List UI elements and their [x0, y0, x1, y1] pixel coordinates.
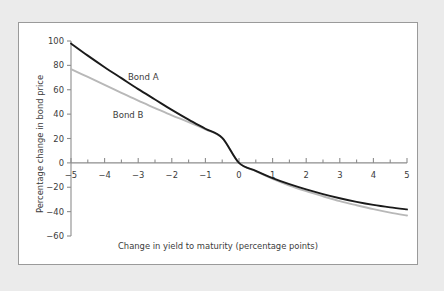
tick-marks: [67, 41, 407, 236]
x-tick-label: 5: [404, 170, 409, 180]
x-axis-title-text: Change in yield to maturity (percentage …: [118, 241, 318, 251]
axes: [71, 41, 407, 236]
x-tick-label: −4: [98, 170, 110, 180]
x-axis-title: Change in yield to maturity (percentage …: [19, 234, 417, 253]
y-tick-label: 20: [53, 134, 64, 144]
chart-figure: Percentage change in bond price −60−40−2…: [18, 22, 418, 265]
x-tick-label: 3: [337, 170, 342, 180]
line-chart-plot: −60−40−20020406080100 −5−4−3−2−1012345 B…: [19, 23, 419, 266]
y-tick-label: −40: [46, 207, 64, 217]
x-tick-label: 0: [236, 170, 241, 180]
y-tick-label: 0: [59, 158, 64, 168]
data-series: [71, 43, 407, 215]
y-tick-label: 100: [48, 36, 64, 46]
x-tick-label: −3: [132, 170, 144, 180]
x-tick-label: 2: [304, 170, 309, 180]
y-tick-labels: −60−40−20020406080100: [46, 36, 64, 241]
series-label-bond-b: Bond B: [113, 110, 144, 120]
x-tick-labels: −5−4−3−2−1012345: [65, 170, 410, 180]
y-tick-label: 60: [53, 85, 64, 95]
y-tick-label: −20: [46, 182, 64, 192]
series-line-bond-b: [71, 69, 407, 215]
x-tick-label: −2: [166, 170, 178, 180]
x-tick-label: −1: [199, 170, 211, 180]
x-tick-label: −5: [65, 170, 77, 180]
y-tick-label: 40: [53, 109, 64, 119]
series-label-bond-a: Bond A: [128, 72, 159, 82]
series-annotations: Bond ABond B: [113, 72, 159, 120]
series-line-bond-a: [71, 43, 407, 209]
x-tick-label: 4: [371, 170, 376, 180]
y-tick-label: 80: [53, 60, 64, 70]
